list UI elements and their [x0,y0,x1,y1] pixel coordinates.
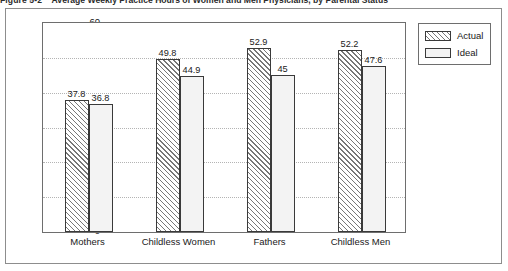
bar-ideal: 47.6 [362,66,386,232]
bar-value-label: 44.9 [183,65,201,76]
bar-actual: 52.9 [247,48,271,232]
bar-ideal: 45 [271,75,295,232]
legend-label-actual: Actual [457,30,483,41]
bar-ideal: 36.8 [89,104,113,232]
figure-number: Figure 5-2 [0,0,42,5]
legend-item-ideal: Ideal [425,46,483,59]
bar-actual: 49.8 [156,59,180,232]
legend-swatch-actual-icon [425,31,451,41]
bars-layer: 37.836.849.844.952.94552.247.6 [43,23,405,232]
figure-title: Average Weekly Practice Hours of Women a… [51,0,388,5]
bar-group: 49.844.9 [156,23,204,232]
plot-area: 37.836.849.844.952.94552.247.6 [42,22,406,233]
legend-swatch-ideal-icon [425,48,451,58]
x-axis-label: Fathers [224,236,315,247]
bar-ideal: 44.9 [180,76,204,232]
figure-caption: Figure 5-2 Average Weekly Practice Hours… [0,0,508,7]
chart-container: 0102030405060 37.836.849.844.952.94552.2… [6,9,503,265]
bar-group: 52.247.6 [338,23,386,232]
legend-item-actual: Actual [425,29,483,42]
bar-value-label: 37.8 [68,89,86,100]
bar-actual: 52.2 [338,50,362,232]
chart-legend: Actual Ideal [418,23,491,65]
x-axis-label: Childless Women [133,236,224,247]
x-axis-label: Mothers [42,236,133,247]
legend-label-ideal: Ideal [457,47,478,58]
x-axis-label: Childless Men [315,236,406,247]
bar-value-label: 36.8 [92,93,110,104]
bar-group: 52.945 [247,23,295,232]
bar-group: 37.836.8 [65,23,113,232]
figure-frame: 0102030405060 37.836.849.844.952.94552.2… [5,8,502,264]
bar-value-label: 52.9 [250,37,268,48]
bar-value-label: 49.8 [159,48,177,59]
bar-value-label: 47.6 [365,55,383,66]
bar-value-label: 45 [277,64,287,75]
bar-actual: 37.8 [65,100,89,232]
bar-value-label: 52.2 [341,39,359,50]
